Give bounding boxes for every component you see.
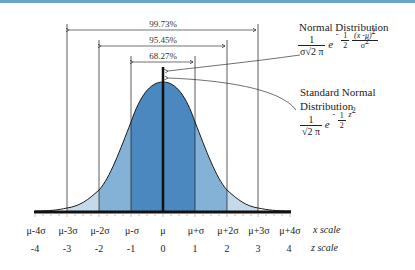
formula-pointers	[168, 55, 300, 110]
interval-label-3sigma: 99.73%	[149, 19, 177, 29]
formula-denominator: σ√2 π	[298, 46, 325, 57]
z-tick: -4	[31, 243, 39, 254]
z-tick: -1	[127, 243, 135, 254]
z-tick: 2	[225, 243, 230, 254]
normal-distribution-formula: 1σ√2 π e - 12 (x -μ)2σ2	[298, 34, 378, 57]
standard-normal-title-line1: Standard Normal	[300, 86, 375, 98]
z-tick: 4	[287, 243, 292, 254]
exp-numerator-power: 2	[372, 27, 376, 36]
z-tick: -3	[63, 243, 71, 254]
exp-half-den: 2	[338, 121, 346, 130]
z-tick: 0	[161, 243, 166, 254]
formula-numerator: 1	[298, 34, 325, 46]
x-tick: μ+3σ	[248, 225, 269, 236]
exp-half-num: 1	[338, 111, 346, 121]
standard-normal-formula: 1√2 π e - 12 z2	[300, 114, 356, 137]
exp-power: 2	[352, 106, 356, 115]
formula-numerator: 1	[300, 114, 322, 126]
euler-e: e	[325, 118, 330, 130]
formula-denominator: √2 π	[300, 126, 322, 137]
x-tick: μ-2σ	[90, 225, 109, 236]
x-tick: μ+2σ	[217, 225, 238, 236]
exp-half-den: 2	[341, 41, 349, 50]
x-tick: μ+σ	[188, 225, 204, 236]
z-tick: 3	[256, 243, 261, 254]
interval-label-1sigma: 68.27%	[149, 51, 177, 61]
exp-sign: -	[336, 30, 339, 39]
z-tick: 1	[193, 243, 198, 254]
exp-denominator-power: 2	[365, 37, 369, 46]
exp-half-num: 1	[341, 31, 349, 41]
x-tick: μ-σ	[125, 225, 139, 236]
exp-sign: -	[332, 110, 335, 119]
x-tick: μ-3σ	[58, 225, 77, 236]
interval-label-2sigma: 95.45%	[149, 35, 177, 45]
euler-e: e	[328, 38, 333, 50]
z-scale-label: z scale	[311, 243, 338, 253]
z-tick: -2	[95, 243, 103, 254]
x-tick: μ	[160, 225, 165, 236]
x-tick: μ-4σ	[26, 225, 45, 236]
x-tick: μ+4σ	[279, 225, 300, 236]
x-scale-label: x scale	[313, 225, 341, 235]
axis-ticks	[35, 213, 290, 217]
